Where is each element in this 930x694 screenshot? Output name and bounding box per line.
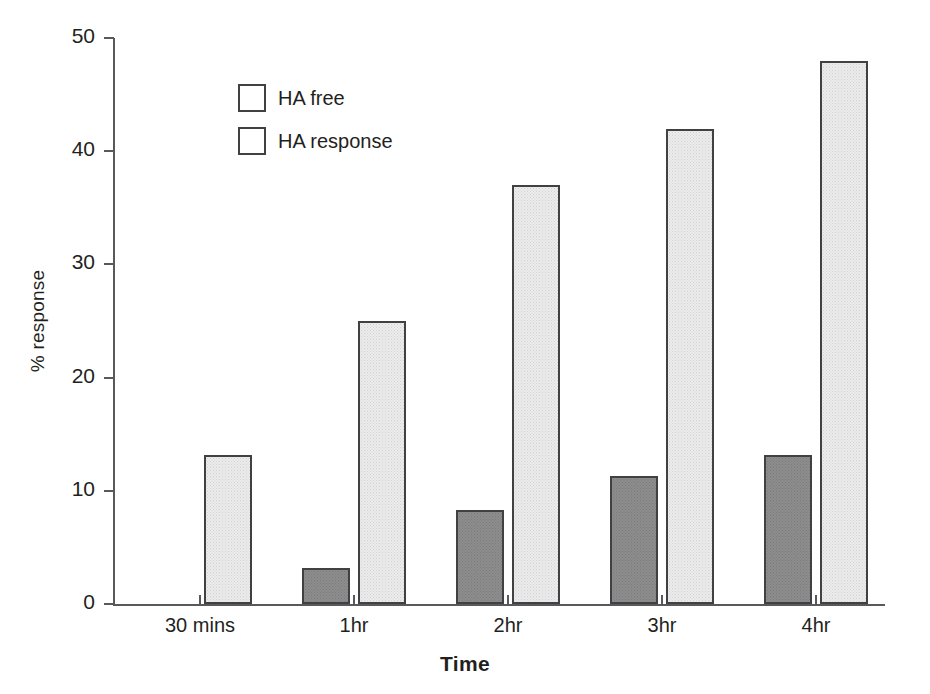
y-tick-30: 30 xyxy=(104,263,114,265)
bar-ha-free-1 xyxy=(302,568,350,604)
y-axis-title: % response xyxy=(27,231,49,411)
y-tick-10: 10 xyxy=(104,490,114,492)
legend-item-ha-free: HA free xyxy=(238,84,393,112)
x-label-3: 3hr xyxy=(648,614,677,637)
x-label-2: 2hr xyxy=(494,614,523,637)
y-tick-label-40: 40 xyxy=(72,137,95,161)
x-label-1: 1hr xyxy=(340,614,369,637)
bar-ha-free-4 xyxy=(764,455,812,604)
x-axis-title: Time xyxy=(0,652,930,676)
legend-label-ha-response: HA response xyxy=(278,130,393,152)
bar-ha-free-3 xyxy=(610,476,658,604)
bar-ha-response-2 xyxy=(512,185,560,604)
plot-area xyxy=(115,38,885,604)
y-tick-label-50: 50 xyxy=(72,24,95,48)
y-tick-label-10: 10 xyxy=(72,477,95,501)
bar-ha-response-0 xyxy=(204,455,252,604)
bar-ha-response-4 xyxy=(820,61,868,604)
bar-ha-response-1 xyxy=(358,321,406,604)
legend-label-ha-free: HA free xyxy=(278,87,345,109)
y-tick-0: 0 xyxy=(104,603,114,605)
legend: HA free HA response xyxy=(238,84,393,170)
legend-swatch-ha-free xyxy=(238,84,266,112)
x-label-4: 4hr xyxy=(802,614,831,637)
y-tick-40: 40 xyxy=(104,150,114,152)
y-tick-50: 50 xyxy=(104,37,114,39)
x-label-0: 30 mins xyxy=(165,614,235,637)
legend-item-ha-response: HA response xyxy=(238,127,393,155)
y-tick-label-30: 30 xyxy=(72,250,95,274)
y-tick-label-0: 0 xyxy=(83,590,95,614)
x-axis-line xyxy=(113,604,885,606)
y-tick-label-20: 20 xyxy=(72,364,95,388)
bar-chart: % response 01020304050 30 mins1hr2hr3hr4… xyxy=(0,0,930,694)
bar-ha-response-3 xyxy=(666,129,714,604)
bar-ha-free-2 xyxy=(456,510,504,604)
y-tick-20: 20 xyxy=(104,377,114,379)
legend-swatch-ha-response xyxy=(238,127,266,155)
